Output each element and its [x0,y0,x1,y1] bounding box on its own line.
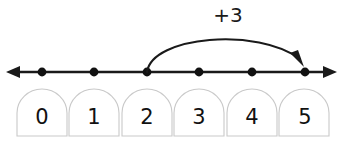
jump-arc [147,39,300,72]
tick-dot-4[interactable] [248,68,257,77]
cell-group [17,89,329,136]
jump-label: +3 [213,3,242,27]
jump-arrow-head [290,50,304,67]
cell-label-0: 0 [35,105,48,129]
cell-label-1: 1 [87,105,100,129]
cell-label-4: 4 [245,105,258,129]
tick-dot-3[interactable] [195,68,204,77]
cell-label-3: 3 [192,105,205,129]
figure-canvas: 0 1 2 3 4 5 +3 [0,0,343,143]
left-arrow-head [6,66,20,78]
tick-dot-0[interactable] [38,68,47,77]
tick-dot-5[interactable] [301,68,310,77]
tick-dot-1[interactable] [90,68,99,77]
cell-label-5: 5 [298,105,311,129]
cell-label-2: 2 [140,105,153,129]
jump-arc-group [147,39,304,72]
number-line-figure: 0 1 2 3 4 5 +3 [0,0,343,143]
number-line-axis [6,66,337,78]
right-arrow-head [323,66,337,78]
